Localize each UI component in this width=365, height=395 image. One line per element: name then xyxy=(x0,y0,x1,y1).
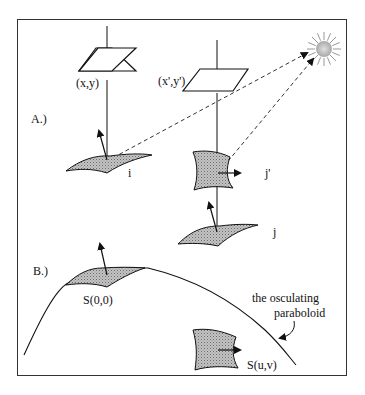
label-suv: S(u,v) xyxy=(247,358,277,372)
label-pixel-xy-prime: (x',y') xyxy=(158,74,185,88)
figure-canvas: (x,y) (x',y') i j' j A.) B.) xyxy=(0,0,365,395)
label-pixel-xy: (x,y) xyxy=(76,76,99,90)
osculating-paraboloid-curve xyxy=(24,268,296,365)
panel-a-label: A.) xyxy=(31,112,47,126)
label-patch-j: j xyxy=(272,225,276,239)
label-patch-j-prime: j' xyxy=(264,166,271,180)
panel-b-label: B.) xyxy=(33,264,48,278)
label-paraboloid-line1: the osculating xyxy=(252,291,319,305)
image-plane-pixel-icon xyxy=(79,26,136,160)
surface-patch-i xyxy=(66,154,152,173)
light-source-sun-icon xyxy=(307,32,341,66)
annotation-arrow-icon xyxy=(280,321,294,338)
surface-patch-j xyxy=(178,224,258,246)
label-patch-i: i xyxy=(128,166,132,180)
surface-patch-j-prime xyxy=(193,151,233,190)
label-s00: S(0,0) xyxy=(83,293,113,307)
image-plane-pixel-prime-icon xyxy=(183,40,248,230)
figure-frame xyxy=(18,20,347,376)
label-paraboloid-line2: paraboloid xyxy=(274,306,325,320)
